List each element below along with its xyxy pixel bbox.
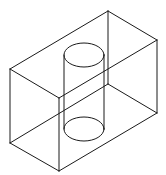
cylinder-bottom-ellipse [64, 117, 104, 141]
cylinder-top-ellipse [64, 43, 104, 67]
box-edge-top-back-right [108, 11, 157, 40]
diagram-canvas [0, 0, 166, 175]
box-edge-bottom-back-right [108, 84, 157, 113]
box-edge-top-back-left [10, 11, 108, 69]
box-edge-top-front-left [10, 69, 59, 98]
box-edge-bottom-front-right [59, 113, 157, 171]
box-edge-bottom-front-left [10, 143, 59, 171]
box-wireframe [10, 11, 157, 171]
